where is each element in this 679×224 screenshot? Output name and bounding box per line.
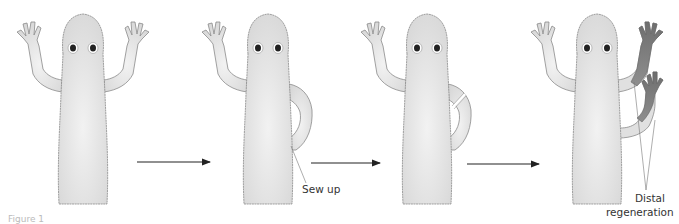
distal-label: Distal <box>621 192 679 205</box>
distal-pointer-1 <box>634 82 646 190</box>
regeneration-label: regeneration <box>606 206 674 219</box>
sewn-arm-cut <box>448 84 471 150</box>
salamander-panel-1 <box>17 14 149 204</box>
sew-up-pointer <box>291 146 306 183</box>
salamander-panel-3 <box>361 14 471 204</box>
sewn-arm <box>289 84 312 150</box>
sew-up-label: Sew up <box>302 183 340 196</box>
figure-caption: Figure 1 <box>8 214 44 224</box>
salamander-panel-2 <box>202 14 312 204</box>
distal-pointer-2 <box>646 120 655 190</box>
salamander-panel-4 <box>531 14 663 204</box>
